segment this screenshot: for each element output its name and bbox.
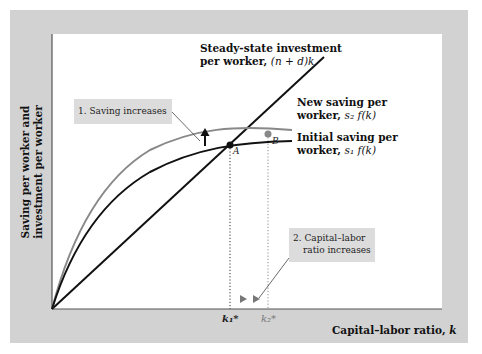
- initial-saving-curve: [52, 141, 292, 309]
- initial-saving-label-line1: Initial saving per: [297, 131, 398, 144]
- y-axis-label-line1: Saving per worker and: [19, 105, 32, 238]
- x-axis-label-text: Capital–labor ratio,: [332, 324, 449, 336]
- initial-saving-label: Initial saving per worker, s₁ f(k): [297, 131, 398, 157]
- y-axis-label-line2: investment per worker: [32, 105, 45, 238]
- callout-2-leader: [259, 258, 289, 298]
- callout-2-line1: 2. Capital–labor: [293, 233, 371, 245]
- investment-label-line1: Steady-state investment: [200, 42, 342, 55]
- initial-saving-label-line2: worker, s₁ f(k): [297, 144, 398, 157]
- x-axis-label: Capital–labor ratio, k: [332, 324, 456, 336]
- point-b-label: B: [272, 136, 279, 146]
- investment-label-line2: per worker, (n + d)k: [200, 55, 342, 68]
- investment-line-label: Steady-state investment per worker, (n +…: [200, 42, 342, 68]
- new-saving-label-line1: New saving per: [297, 96, 387, 109]
- k2-star-tick: k₂*: [261, 313, 276, 324]
- x-axis-label-var: k: [449, 324, 456, 336]
- investment-line: [52, 57, 324, 309]
- k1-star-tick: k₁*: [222, 313, 239, 324]
- new-saving-label: New saving per worker, s₂ f(k): [297, 96, 387, 122]
- callout-saving-increases: 1. Saving increases: [74, 99, 172, 124]
- y-axis-label: Saving per worker and investment per wor…: [14, 34, 50, 309]
- callout-capital-labor-increases: 2. Capital–labor ratio increases: [289, 228, 375, 262]
- right-arrow-icon: [240, 295, 247, 303]
- new-saving-label-line2: worker, s₂ f(k): [297, 109, 387, 122]
- right-arrow-icon: [253, 295, 260, 303]
- new-saving-curve: [52, 128, 292, 309]
- callout-2-line2: ratio increases: [293, 245, 371, 257]
- point-a-label: A: [233, 146, 240, 156]
- point-b-marker: [265, 131, 272, 138]
